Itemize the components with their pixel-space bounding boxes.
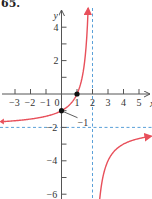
x-tick-label: 5 <box>137 97 142 108</box>
x-tick-label: −2 <box>25 97 36 108</box>
x-tick-label: 3 <box>106 97 111 108</box>
rational-function-graph: yx−3−2−101234542−2−4−6−1 <box>0 0 152 199</box>
curve-left-arrowhead <box>0 119 4 125</box>
y-tick-label: 4 <box>54 22 59 33</box>
y-tick-label: 2 <box>54 55 59 66</box>
annotation-y-intercept-label: −1 <box>78 117 89 128</box>
curve-right-branch <box>95 136 151 199</box>
x-tick-label: 2 <box>90 97 95 108</box>
x-tick-label: 0 <box>55 97 60 108</box>
y-tick-label: −4 <box>47 155 58 166</box>
intercept-point <box>59 108 64 113</box>
y-tick-label: −2 <box>47 122 58 133</box>
x-tick-label: −1 <box>40 97 51 108</box>
x-tick-label: −3 <box>9 97 20 108</box>
x-tick-label: 4 <box>121 97 126 108</box>
y-tick-label: −6 <box>47 189 58 199</box>
y-axis-label: y <box>53 10 59 21</box>
intercept-point <box>74 91 79 96</box>
annotation-leader-line <box>64 112 78 118</box>
x-axis-label: x <box>149 98 152 109</box>
